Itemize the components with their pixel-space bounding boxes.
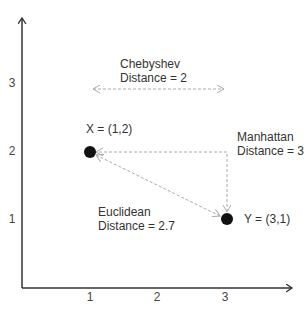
point-y: [221, 213, 233, 225]
euclidean-label: Euclidean: [98, 205, 151, 219]
euclidean-distance: Distance = 2.7: [98, 219, 175, 233]
distance-metrics-diagram: 1 2 3 3 2 1 Chebyshev Distance = 2 Manha…: [0, 0, 307, 310]
manhattan-distance: Distance = 3: [237, 144, 304, 158]
chebyshev-label: Chebyshev: [120, 57, 180, 71]
x-tick-3: 3: [222, 290, 229, 304]
manhattan-path: [96, 152, 227, 212]
x-tick-1: 1: [87, 290, 94, 304]
y-tick-2: 2: [9, 144, 16, 158]
manhattan-label: Manhattan: [237, 130, 294, 144]
y-tick-3: 3: [9, 76, 16, 90]
x-tick-2: 2: [154, 290, 161, 304]
point-x: [84, 146, 96, 158]
point-x-label: X = (1,2): [86, 122, 132, 136]
point-y-label: Y = (3,1): [244, 212, 290, 226]
chebyshev-distance: Distance = 2: [120, 71, 187, 85]
y-tick-1: 1: [9, 212, 16, 226]
